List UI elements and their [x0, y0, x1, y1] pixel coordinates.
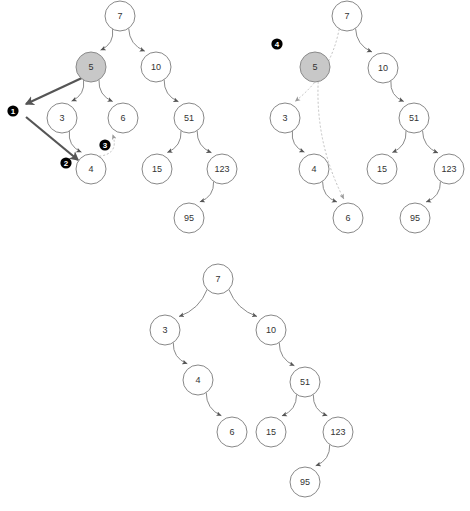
step-marker: 4 — [271, 38, 282, 49]
tree-node-label: 123 — [214, 164, 229, 174]
step-marker-label: 2 — [64, 159, 69, 168]
tree-node-label: 5 — [312, 62, 317, 72]
tree-node-label: 3 — [282, 113, 287, 123]
tree-node[interactable]: 15 — [142, 154, 172, 184]
tree-edge — [323, 181, 337, 202]
step-marker: 3 — [99, 139, 110, 150]
tree-node[interactable]: 10 — [368, 53, 398, 83]
tree-node-label: 10 — [151, 62, 161, 72]
tree-edge — [316, 445, 330, 466]
tree-node-label: 6 — [120, 113, 125, 123]
tree-node[interactable]: 4 — [183, 365, 213, 395]
tree-edge — [129, 28, 145, 51]
step-marker-label: 3 — [103, 141, 108, 150]
tree-edge — [392, 131, 406, 153]
nodes-layer: 7510365141512395751035141512369573104516… — [47, 1, 464, 497]
tree-node[interactable]: 6 — [108, 103, 138, 133]
tree-node-label: 4 — [88, 164, 93, 174]
tree-node-label: 10 — [266, 325, 276, 335]
tree-node[interactable]: 4 — [76, 154, 106, 184]
tree-node[interactable]: 5 — [300, 52, 330, 82]
tree-node[interactable]: 7 — [332, 1, 362, 31]
tree-edge — [101, 29, 113, 50]
tree-edge — [279, 343, 294, 366]
tree-edge — [426, 181, 440, 202]
pointer-arrow — [26, 77, 84, 104]
tree-edge — [200, 181, 214, 201]
tree-edge — [229, 289, 257, 316]
tree-node-label: 15 — [152, 164, 162, 174]
tree-node[interactable]: 15 — [367, 154, 397, 184]
tree-edge — [173, 343, 187, 364]
tree-node-label: 7 — [344, 11, 349, 21]
tree-node[interactable]: 123 — [434, 154, 464, 184]
tree-node-label: 95 — [184, 213, 194, 223]
tree-node[interactable]: 3 — [270, 103, 300, 133]
tree-node[interactable]: 123 — [207, 154, 237, 184]
tree-node-label: 3 — [59, 113, 64, 123]
tree-node-label: 4 — [311, 164, 316, 174]
tree-node[interactable]: 3 — [150, 315, 180, 345]
tree-edge — [197, 131, 211, 153]
tree-edge — [164, 80, 178, 102]
tree-node-label: 95 — [410, 213, 420, 223]
tree-node-label: 4 — [195, 375, 200, 385]
tree-edge — [69, 131, 81, 152]
tree-node-label: 123 — [330, 427, 345, 437]
tree-node[interactable]: 6 — [333, 203, 363, 233]
tree-edge — [72, 80, 84, 101]
tree-node[interactable]: 10 — [256, 315, 286, 345]
step-marker-label: 4 — [275, 40, 280, 49]
tree-node-label: 5 — [88, 62, 93, 72]
tree-node-label: 15 — [266, 427, 276, 437]
tree-edge — [282, 394, 297, 415]
tree-edge — [422, 130, 437, 153]
tree-node-label: 15 — [377, 164, 387, 174]
tree-node[interactable]: 6 — [217, 417, 247, 447]
tree-node[interactable]: 51 — [174, 103, 204, 133]
tree-node[interactable]: 95 — [400, 203, 430, 233]
step-marker-label: 1 — [11, 107, 16, 116]
tree-node-label: 7 — [215, 274, 220, 284]
tree-node-label: 6 — [229, 427, 234, 437]
tree-node[interactable]: 3 — [47, 103, 77, 133]
tree-edge — [292, 131, 304, 152]
tree-node[interactable]: 95 — [290, 467, 320, 497]
tree-node-label: 95 — [300, 477, 310, 487]
tree-edge — [167, 131, 181, 153]
tree-node-label: 51 — [184, 113, 194, 123]
tree-node-label: 123 — [441, 164, 456, 174]
tree-node-label: 7 — [117, 11, 122, 21]
step-marker: 2 — [60, 157, 71, 168]
tree-node-label: 51 — [300, 377, 310, 387]
tree-node[interactable]: 10 — [141, 52, 171, 82]
tree-node-label: 3 — [162, 325, 167, 335]
tree-node[interactable]: 51 — [399, 103, 429, 133]
tree-node[interactable]: 15 — [256, 417, 286, 447]
tree-edge — [356, 28, 372, 52]
tree-node-label: 51 — [409, 113, 419, 123]
tree-edge — [313, 395, 327, 416]
tree-diagram-canvas: 7510365141512395751035141512369573104516… — [0, 0, 470, 511]
edges-layer — [69, 28, 440, 465]
tree-node[interactable]: 5 — [76, 52, 106, 82]
tree-node-label: 6 — [345, 213, 350, 223]
tree-edge — [391, 81, 404, 102]
tree-node[interactable]: 51 — [290, 367, 320, 397]
tree-node[interactable]: 7 — [203, 264, 233, 294]
step-marker: 1 — [7, 105, 18, 116]
tree-node[interactable]: 7 — [105, 1, 135, 31]
tree-edge — [206, 393, 221, 416]
tree-node[interactable]: 4 — [299, 154, 329, 184]
tree-node-label: 10 — [378, 63, 388, 73]
tree-edge — [99, 80, 113, 102]
tree-node[interactable]: 123 — [323, 417, 353, 447]
tree-edge — [179, 289, 207, 316]
tree-node[interactable]: 95 — [174, 203, 204, 233]
